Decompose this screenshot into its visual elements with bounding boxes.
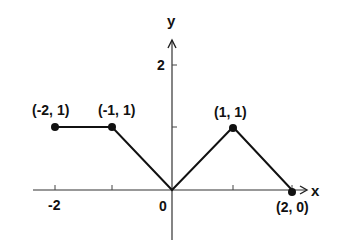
function-line — [55, 127, 292, 190]
point-label-2-0: (2, 0) — [276, 199, 309, 215]
y-axis-label: y — [167, 12, 176, 29]
piecewise-function-graph: y x 2 -2 0 (-2, 1) (-1, 1) (1, 1) (2, 0) — [0, 0, 343, 245]
point-neg2-1 — [51, 123, 59, 131]
y-tick-label-2: 2 — [157, 57, 165, 73]
point-label-neg1-1: (-1, 1) — [98, 102, 135, 118]
x-tick-label-neg2: -2 — [48, 197, 61, 213]
point-label-neg2-1: (-2, 1) — [32, 102, 69, 118]
x-axis-label: x — [311, 182, 320, 199]
point-1-1 — [229, 124, 237, 132]
point-neg1-1 — [108, 123, 116, 131]
point-label-1-1: (1, 1) — [214, 104, 247, 120]
origin-label: 0 — [159, 198, 167, 214]
point-2-0 — [288, 188, 296, 196]
